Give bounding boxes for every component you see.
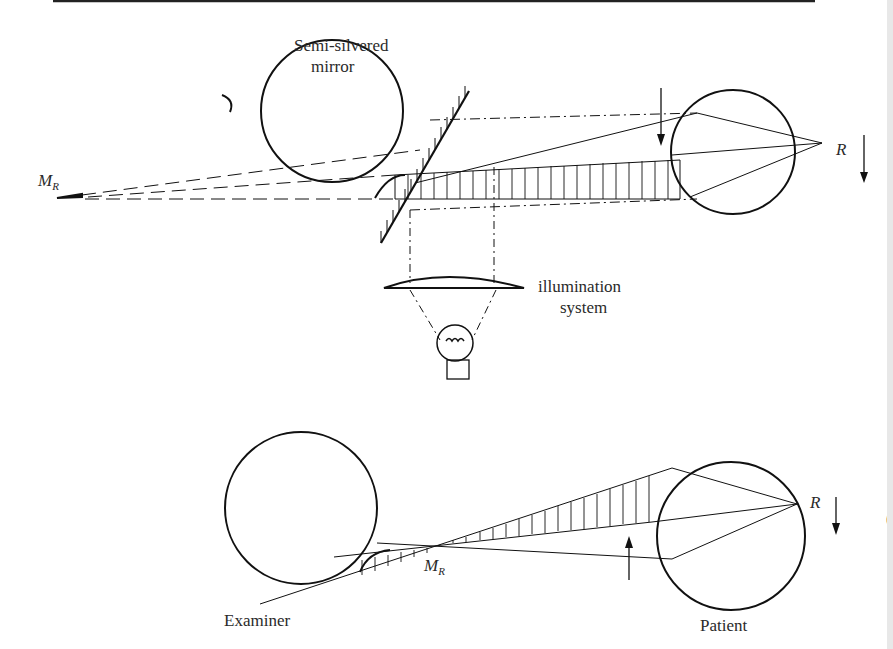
- illumination-label-line2: system: [560, 299, 621, 316]
- patient-label: Patient: [700, 617, 747, 634]
- page-edge: [887, 0, 893, 649]
- ray: [260, 468, 672, 604]
- retina-label-top: R: [836, 141, 846, 158]
- illumination-label: illumination system: [538, 278, 621, 316]
- retina-label-bottom: R: [810, 494, 820, 511]
- ray: [690, 143, 822, 197]
- examiner-cornea-top: [222, 95, 231, 112]
- patient-eye-bottom: [657, 462, 805, 610]
- semi-silvered-mirror: [381, 91, 469, 243]
- condenser-lens: [384, 277, 524, 288]
- mirror-label-line1: Semi-silvered: [294, 37, 388, 54]
- beam-hatching: [408, 160, 668, 199]
- ray: [697, 113, 822, 143]
- patient-eye-top: [671, 90, 795, 214]
- mirror-label: Semi-silvered mirror: [294, 37, 388, 75]
- image-label-bottom: MR: [424, 557, 445, 577]
- lamp-base: [447, 360, 469, 379]
- cone-hatching: [362, 476, 649, 575]
- bottom-diagram: [225, 432, 840, 610]
- examiner-eye-bottom: [225, 432, 377, 584]
- illumination-ray: [430, 113, 697, 120]
- examiner-lens-top: [375, 175, 405, 198]
- ray: [652, 504, 797, 522]
- mirror-label-line2: mirror: [311, 58, 388, 75]
- lamp-filament: [446, 339, 464, 342]
- ray: [672, 143, 822, 155]
- illumination-ray: [410, 199, 697, 210]
- virtual-image-label-top: MR: [38, 172, 59, 192]
- ray: [672, 468, 797, 504]
- illumination-label-line1: illumination: [538, 278, 621, 295]
- virtual-ray: [88, 175, 395, 197]
- virtual-image-arrow: [57, 194, 82, 198]
- ophthalmoscope-diagram: [0, 0, 893, 649]
- examiner-label: Examiner: [224, 612, 290, 629]
- lamp-bulb: [437, 325, 473, 361]
- top-diagram: [57, 40, 868, 379]
- hatched-beam-top: [395, 160, 680, 199]
